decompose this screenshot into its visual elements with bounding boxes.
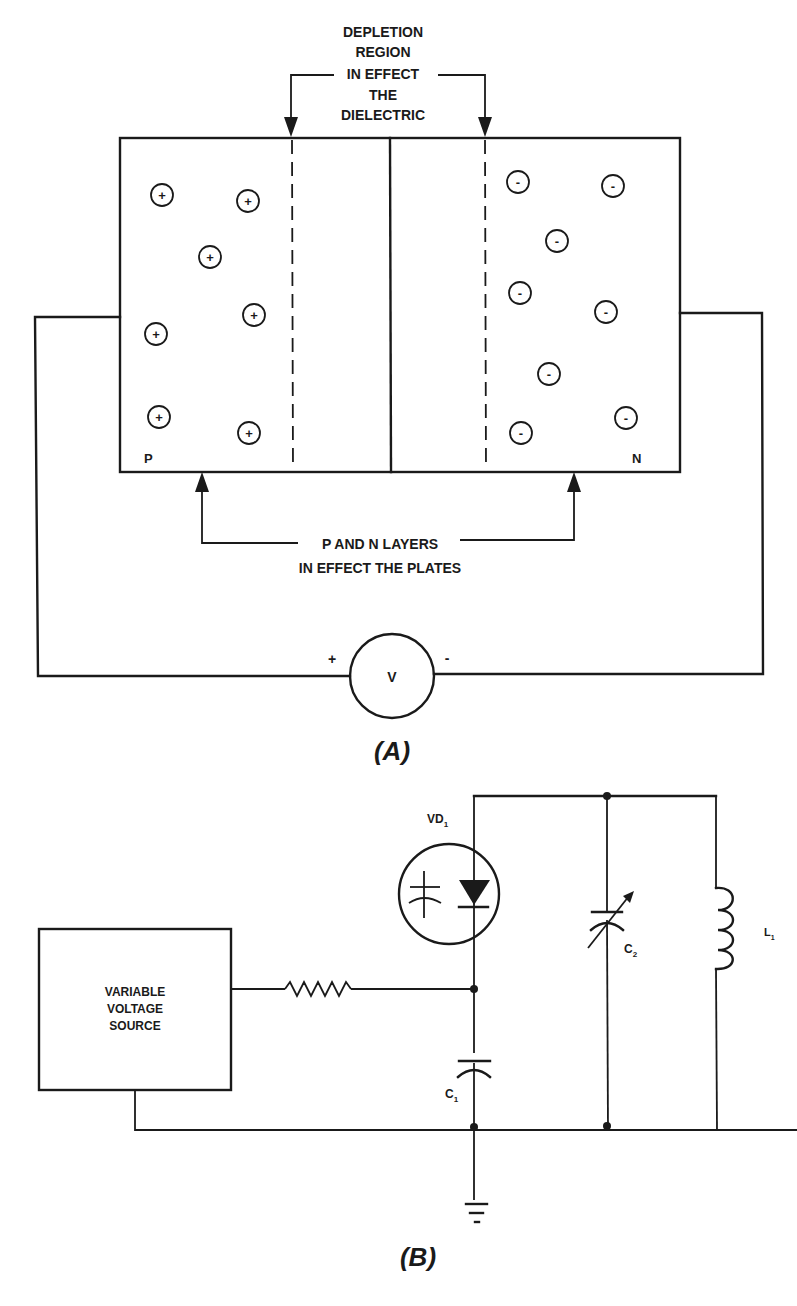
negative-charge-symbol: - [519,426,523,441]
depletion-label-line-2: REGION [355,44,410,60]
p-region-label: P [144,451,153,466]
variable-voltage-source: VARIABLE VOLTAGE SOURCE [39,929,231,1090]
n-plate-arrowhead-icon [567,472,581,492]
negative-charge-symbol: - [547,367,551,382]
wire-left [35,317,350,676]
c2-adjust-line-icon [588,896,629,948]
c1-label-subscript: 1 [454,1095,459,1104]
positive-charge-symbol: + [206,250,214,265]
varactor-label-subscript: 1 [444,820,449,829]
positive-charge-symbol: + [155,410,163,425]
p-depletion-edge [292,140,293,470]
left-depletion-leader [291,75,334,128]
ground-symbol-icon [466,1204,487,1222]
plates-label-line-1: P AND N LAYERS [322,536,438,552]
positive-charge-symbol: + [244,194,252,209]
junction-outline [120,138,680,472]
varactor-diode: VD1 [399,812,499,944]
p-plate-leader [202,490,298,543]
junction-dot-c2 [603,1122,611,1130]
p-charges: +++++++ [145,184,265,444]
c2-label-subscript: 2 [633,950,638,959]
negative-charge-symbol: - [624,411,628,426]
positive-charge-symbol: + [158,188,166,203]
junction-boundary [390,138,391,472]
junction-dot-top [603,792,611,800]
c2-lower-wire [607,920,608,1130]
figure-a: DEPLETION REGION IN EFFECT THE DIELECTRI… [35,24,763,766]
l1-label-subscript: 1 [771,934,775,941]
diode-triangle-icon [459,880,490,905]
depletion-label-line-5: DIELECTRIC [341,107,425,123]
varactor-label-text: VD [427,812,444,826]
positive-charge-symbol: + [250,308,258,323]
inductor-l1: L1 [716,888,775,969]
c1-label-text: C [445,1087,454,1101]
junction-dot-ground [470,1123,478,1131]
resistor-icon [285,982,351,996]
junction-dot-resistor [470,985,478,993]
capacitor-c2: C2 [588,891,638,959]
n-depletion-edge [485,140,486,470]
c2-label: C2 [624,942,638,959]
capacitor-c1: C1 [445,1061,490,1104]
inductor-coil-icon [716,888,733,969]
negative-charge-symbol: - [611,179,615,194]
ground-rail [135,1090,797,1130]
positive-terminal-label: + [328,651,336,667]
wire-right [434,313,763,674]
plates-label-group: P AND N LAYERS IN EFFECT THE PLATES [195,472,581,576]
n-plate-leader [460,490,574,540]
figure-b-caption: (B) [400,1242,436,1272]
depletion-label-line-1: DEPLETION [343,24,423,40]
figure-a-caption: (A) [374,736,410,766]
c2-label-text: C [624,942,633,956]
n-charges: -------- [507,171,637,444]
figure-b: VARIABLE VOLTAGE SOURCE [39,792,797,1272]
negative-charge-symbol: - [518,286,522,301]
varactor-cap-curve-icon [409,898,441,903]
negative-terminal-label: - [445,650,450,666]
bias-circuit: V + - [35,313,763,718]
l1-label: L1 [764,926,775,941]
source-label-line-3: SOURCE [109,1019,160,1033]
negative-charge-symbol: - [604,305,608,320]
c1-label: C1 [445,1087,459,1104]
n-region-label: N [632,451,641,466]
voltmeter-label: V [387,669,397,685]
pn-junction: P N +++++++ -------- [120,138,680,472]
depletion-arrows [284,75,492,137]
source-label-line-2: VOLTAGE [107,1002,163,1016]
positive-charge-symbol: + [245,426,253,441]
depletion-label-line-3: IN EFFECT [347,66,420,82]
depletion-region-label: DEPLETION REGION IN EFFECT THE DIELECTRI… [341,24,425,123]
right-depletion-arrowhead-icon [478,117,492,137]
diagram-canvas: DEPLETION REGION IN EFFECT THE DIELECTRI… [0,0,797,1306]
left-depletion-arrowhead-icon [284,117,298,137]
plates-label-line-2: IN EFFECT THE PLATES [299,560,461,576]
p-plate-arrowhead-icon [195,472,209,492]
varactor-envelope-icon [399,844,499,944]
source-label-line-1: VARIABLE [105,985,165,999]
negative-charge-symbol: - [555,234,559,249]
negative-charge-symbol: - [516,175,520,190]
depletion-label-line-4: THE [369,87,397,103]
l1-lower-wire [716,969,717,1130]
circuit-b-wires [135,792,797,1200]
varactor-label: VD1 [427,812,449,829]
positive-charge-symbol: + [152,327,160,342]
right-depletion-leader [438,75,485,128]
